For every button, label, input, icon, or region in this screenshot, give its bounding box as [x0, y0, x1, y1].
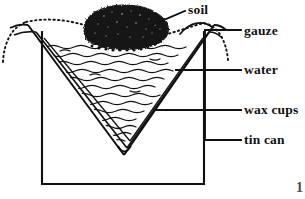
diagram-canvas: soil gauze water wax cups tin can 1 [0, 0, 305, 199]
label-soil: soil [188, 3, 208, 17]
page-number: 1 [296, 180, 303, 196]
soil-clump [84, 5, 169, 52]
label-water: water [244, 63, 278, 77]
label-tin-can: tin can [244, 133, 285, 147]
label-wax-cups: wax cups [244, 103, 299, 117]
label-gauze: gauze [244, 24, 278, 38]
